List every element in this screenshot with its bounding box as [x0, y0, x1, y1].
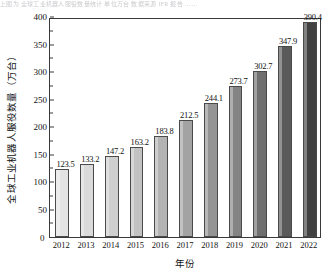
bar-value-label: 302.7 [254, 61, 272, 71]
bar-highlight [155, 137, 158, 236]
bar-highlight [81, 165, 84, 236]
bar-value-label: 390.4 [304, 12, 322, 22]
y-tick-label: 100 [34, 177, 48, 187]
x-tick-label-2021: 2021 [275, 240, 292, 250]
bar-rect: 183.8 [154, 136, 168, 237]
bar-2020: 302.7 [253, 17, 267, 237]
bar-2016: 183.8 [154, 17, 168, 237]
bar-rect: 163.2 [130, 147, 144, 237]
bar-value-label: 244.1 [205, 93, 223, 103]
bar-value-label: 163.2 [131, 137, 149, 147]
y-tick-mark [50, 17, 54, 18]
bar-rect: 123.5 [55, 169, 69, 237]
bar-highlight [279, 47, 282, 236]
bar-rect: 347.9 [278, 46, 292, 237]
bar-value-label: 133.2 [81, 154, 99, 164]
y-tick-label: 300 [34, 67, 48, 77]
x-tick-label-2012: 2012 [53, 240, 70, 250]
y-tick-label: 150 [34, 150, 48, 160]
y-tick-label: 350 [34, 40, 48, 50]
y-axis-title: 全球工业机器人服役数量（万台） [4, 27, 18, 227]
bar-highlight [304, 23, 307, 236]
y-tick-label: 250 [34, 95, 48, 105]
x-tick-label-2016: 2016 [152, 240, 169, 250]
bar-rect: 212.5 [179, 120, 193, 237]
bar-2019: 273.7 [229, 17, 243, 237]
x-tick-label-2018: 2018 [201, 240, 218, 250]
bar-rect: 133.2 [80, 164, 94, 237]
bar-rect: 302.7 [253, 71, 267, 237]
x-axis-title: 年份 [49, 256, 321, 270]
bar-series: 123.5133.2147.2163.2183.8212.5244.1273.7… [50, 19, 320, 237]
bar-value-label: 147.2 [106, 146, 124, 156]
bar-2018: 244.1 [204, 17, 218, 237]
plot-area: 50100150200250300350400 123.5133.2147.21… [49, 18, 321, 238]
y-tick-label: 50 [38, 205, 47, 215]
bar-highlight [205, 104, 208, 236]
bar-highlight [131, 148, 134, 236]
bar-rect: 273.7 [229, 86, 243, 237]
bar-2017: 212.5 [179, 17, 193, 237]
x-tick-label-2019: 2019 [226, 240, 243, 250]
bar-value-label: 273.7 [230, 76, 248, 86]
bar-2021: 347.9 [278, 17, 292, 237]
bar-rect: 390.4 [303, 22, 317, 237]
bar-highlight [180, 121, 183, 236]
x-tick-label-2014: 2014 [102, 240, 119, 250]
bar-highlight [56, 170, 59, 236]
x-tick-label-2013: 2013 [78, 240, 95, 250]
bar-rect: 147.2 [105, 156, 119, 237]
bar-chart-figure: 全球工业机器人服役数量（万台） 50100150200250300350400 … [0, 0, 329, 280]
x-tick-label-2020: 2020 [251, 240, 268, 250]
bar-2015: 163.2 [130, 17, 144, 237]
y-tick-label: 200 [34, 122, 48, 132]
bar-2022: 390.4 [303, 17, 317, 237]
y-axis-zero-label: 0 [40, 233, 45, 243]
bar-value-label: 212.5 [180, 110, 198, 120]
bar-rect: 244.1 [204, 103, 218, 237]
x-tick-label-2015: 2015 [127, 240, 144, 250]
bar-highlight [254, 72, 257, 236]
bar-highlight [106, 157, 109, 236]
x-tick-label-2022: 2022 [300, 240, 317, 250]
x-axis-tick-labels: 2012201320142015201620172018201920202021… [49, 240, 321, 254]
bar-2014: 147.2 [105, 17, 119, 237]
bar-highlight [230, 87, 233, 236]
bar-2012: 123.5 [55, 17, 69, 237]
y-tick-label: 400 [34, 12, 48, 22]
bar-value-label: 183.8 [155, 126, 173, 136]
bar-value-label: 123.5 [56, 159, 74, 169]
bar-2013: 133.2 [80, 17, 94, 237]
x-tick-label-2017: 2017 [177, 240, 194, 250]
bar-value-label: 347.9 [279, 36, 297, 46]
